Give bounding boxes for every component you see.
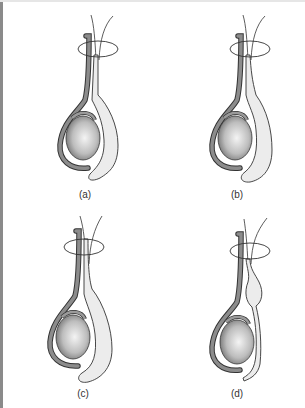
- anatomy-illustration-a: [0, 0, 152, 204]
- panel-label-c: (c): [68, 388, 98, 399]
- anatomy-illustration-b: [152, 0, 305, 204]
- panel-label-a: (a): [70, 189, 100, 200]
- figure: (a) (b) (c): [0, 0, 305, 408]
- panel-b: (b): [152, 0, 304, 204]
- panel-a: (a): [0, 0, 152, 204]
- panel-d: (d): [152, 204, 304, 408]
- panel-label-d: (d): [222, 388, 252, 399]
- anatomy-illustration-d: [152, 204, 305, 408]
- anatomy-illustration-c: [0, 204, 152, 408]
- panel-c: (c): [0, 204, 152, 408]
- panel-label-b: (b): [222, 189, 252, 200]
